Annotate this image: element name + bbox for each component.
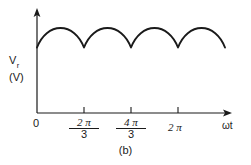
x-tick-label-2pi-over-3-denominator: 3 xyxy=(69,129,99,140)
x-tick-label-origin: 0 xyxy=(33,118,39,129)
x-tick-label-2pi-over-3: 2 π 3 xyxy=(69,117,99,140)
x-tick-label-2pi: 2 π xyxy=(168,122,182,133)
ripple-waveform-curve xyxy=(37,28,225,48)
x-axis-label: ωt xyxy=(222,121,233,131)
y-axis-label-subscript: r xyxy=(17,61,20,70)
y-axis-label: Vr xyxy=(9,55,19,69)
y-axis-label-symbol: V xyxy=(9,54,16,66)
figure-caption: (b) xyxy=(0,145,251,156)
figure-container: Vr (V) 0 2 π 3 4 π 3 2 π ωt (b) xyxy=(0,0,251,165)
x-tick-label-4pi-over-3: 4 π 3 xyxy=(116,117,146,140)
y-axis-units-label: (V) xyxy=(9,72,24,83)
x-tick-label-4pi-over-3-denominator: 3 xyxy=(116,129,146,140)
